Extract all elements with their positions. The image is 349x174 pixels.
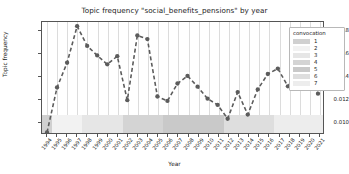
x-tick-mark — [309, 134, 310, 137]
data-point — [75, 24, 79, 28]
data-point — [125, 98, 129, 102]
data-point — [266, 72, 270, 76]
legend-label: 7 — [314, 80, 317, 87]
legend-item-5[interactable]: 5 — [293, 66, 341, 73]
data-point — [225, 117, 229, 121]
legend-item-1[interactable]: 1 — [293, 38, 341, 45]
x-tick-mark — [188, 134, 189, 137]
legend-swatch — [293, 67, 310, 72]
x-axis-label: Year — [0, 161, 349, 167]
data-point — [236, 90, 240, 94]
x-tick-mark — [289, 134, 290, 137]
series-line-social-benefits-pensions — [42, 22, 323, 133]
x-tick-label: 1998 — [80, 137, 93, 151]
x-tick-label: 1999 — [91, 137, 104, 151]
data-point — [276, 66, 280, 70]
legend: convocation 1234567 — [289, 27, 345, 91]
plot-area — [41, 21, 324, 134]
x-tick-mark — [127, 134, 128, 137]
legend-swatch — [293, 46, 310, 51]
data-point — [65, 61, 69, 65]
legend-swatch — [293, 39, 310, 44]
chart-title: Topic frequency "social_benefits_pension… — [0, 6, 349, 15]
legend-items: 1234567 — [293, 38, 341, 87]
x-tick-mark — [228, 134, 229, 137]
legend-label: 2 — [314, 45, 317, 52]
legend-label: 5 — [314, 66, 317, 73]
data-point — [85, 44, 89, 48]
data-point — [135, 33, 139, 37]
legend-item-4[interactable]: 4 — [293, 59, 341, 66]
x-tick-mark — [208, 134, 209, 137]
data-point — [195, 85, 199, 89]
data-point — [215, 103, 219, 107]
legend-swatch — [293, 60, 310, 65]
legend-item-3[interactable]: 3 — [293, 52, 341, 59]
x-tick-mark — [46, 134, 47, 137]
x-tick-mark — [279, 134, 280, 137]
data-point — [205, 97, 209, 101]
legend-item-2[interactable]: 2 — [293, 45, 341, 52]
data-point — [175, 81, 179, 85]
x-tick-label: 2007 — [171, 137, 184, 151]
data-point — [246, 112, 250, 116]
data-point — [155, 94, 159, 98]
data-point — [165, 99, 169, 103]
y-axis-label: Topic frequency — [2, 32, 8, 78]
data-point — [256, 87, 260, 91]
data-point — [55, 85, 59, 89]
data-point — [145, 37, 149, 41]
data-point — [105, 62, 109, 66]
legend-label: 6 — [314, 73, 317, 80]
legend-item-6[interactable]: 6 — [293, 73, 341, 80]
x-tick-mark — [107, 134, 108, 137]
chart-figure: Topic frequency "social_benefits_pension… — [0, 0, 349, 174]
x-tick-mark — [137, 134, 138, 137]
x-tick-label: 2017 — [273, 137, 286, 151]
legend-label: 4 — [314, 59, 317, 66]
x-tick-mark — [198, 134, 199, 137]
legend-swatch — [293, 74, 310, 79]
x-tick-mark — [117, 134, 118, 137]
legend-swatch — [293, 81, 310, 86]
data-point — [316, 92, 320, 96]
x-tick-mark — [97, 134, 98, 137]
x-tick-label: 2016 — [262, 137, 275, 151]
data-point — [185, 74, 189, 78]
legend-title: convocation — [293, 30, 341, 36]
legend-swatch — [293, 53, 310, 58]
legend-label: 1 — [314, 38, 317, 45]
x-tick-mark — [299, 134, 300, 137]
x-tick-mark — [319, 134, 320, 137]
x-tick-label: 2008 — [182, 137, 195, 151]
data-point — [115, 54, 119, 58]
data-point — [95, 53, 99, 57]
x-tick-mark — [218, 134, 219, 137]
legend-item-7[interactable]: 7 — [293, 80, 341, 87]
legend-label: 3 — [314, 52, 317, 59]
